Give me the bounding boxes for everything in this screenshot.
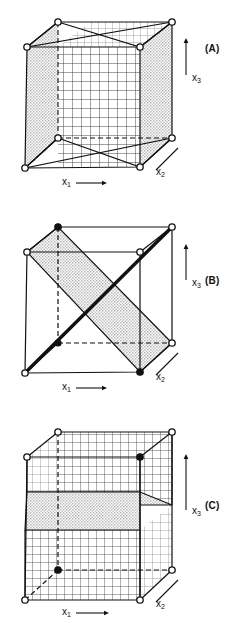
panel-b: x3 x1 x2 bbox=[0, 205, 249, 410]
axis-label-x1-b: x1 bbox=[62, 381, 71, 392]
axis-label-x3-b: x3 bbox=[192, 277, 201, 288]
panel-a: x3 x1 x2 bbox=[0, 0, 249, 205]
shaded-mid-plane-front bbox=[25, 492, 140, 530]
panel-letter-b: (B) bbox=[205, 275, 219, 286]
axis-label-x2-c: x2 bbox=[156, 598, 165, 609]
axis-label-x1-c: x1 bbox=[62, 606, 71, 617]
axis-label-x1-a: x1 bbox=[62, 176, 71, 187]
panel-a-diagram bbox=[0, 0, 249, 205]
panel-c: x3 x1 x2 bbox=[0, 410, 249, 623]
grid-mid-plane bbox=[58, 47, 140, 167]
panel-b-diagram bbox=[0, 205, 249, 410]
axis-label-x3-a: x3 bbox=[192, 72, 201, 83]
axis-label-x3-c: x3 bbox=[192, 505, 201, 516]
axis-label-x2-b: x2 bbox=[156, 371, 165, 382]
panel-letter-a: (A) bbox=[205, 43, 219, 54]
panel-c-diagram bbox=[0, 410, 249, 623]
axis-label-x2-a: x2 bbox=[156, 166, 165, 177]
panel-letter-c: (C) bbox=[205, 500, 219, 511]
grid-lower-plane bbox=[25, 530, 140, 600]
figure-root: x3 x1 x2 bbox=[0, 0, 249, 623]
